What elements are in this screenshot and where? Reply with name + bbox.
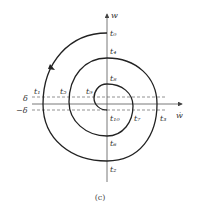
point-label-t2: t₂ (110, 165, 116, 174)
point-label-t0: t₀ (110, 29, 117, 38)
point-label-t8: t₈ (110, 74, 117, 83)
point-label-t6: t₆ (110, 139, 117, 148)
axis-label-w: w (111, 11, 118, 20)
point-label-t7: t₇ (134, 114, 141, 123)
spiral-phase-diagram: w ẇ δ −δ t₀ t₄ t₈ t₁ t₅ t₉ t₁₀ t₇ t₃ t₆ … (0, 0, 199, 207)
point-label-t1: t₁ (34, 87, 40, 96)
point-label-t5: t₅ (60, 87, 67, 96)
axis-label-wdot: ẇ (176, 111, 183, 120)
point-label-t3: t₃ (160, 114, 166, 123)
direction-arrow-icon (48, 64, 55, 70)
point-label-t4: t₄ (110, 47, 116, 56)
threshold-label-lower: −δ (16, 106, 28, 115)
figure-caption: (c) (95, 193, 106, 202)
point-label-t10: t₁₀ (110, 114, 120, 123)
threshold-label-upper: δ (23, 94, 28, 103)
diagram-canvas: w ẇ δ −δ t₀ t₄ t₈ t₁ t₅ t₉ t₁₀ t₇ t₃ t₆ … (0, 0, 199, 207)
point-label-t9: t₉ (86, 87, 93, 96)
